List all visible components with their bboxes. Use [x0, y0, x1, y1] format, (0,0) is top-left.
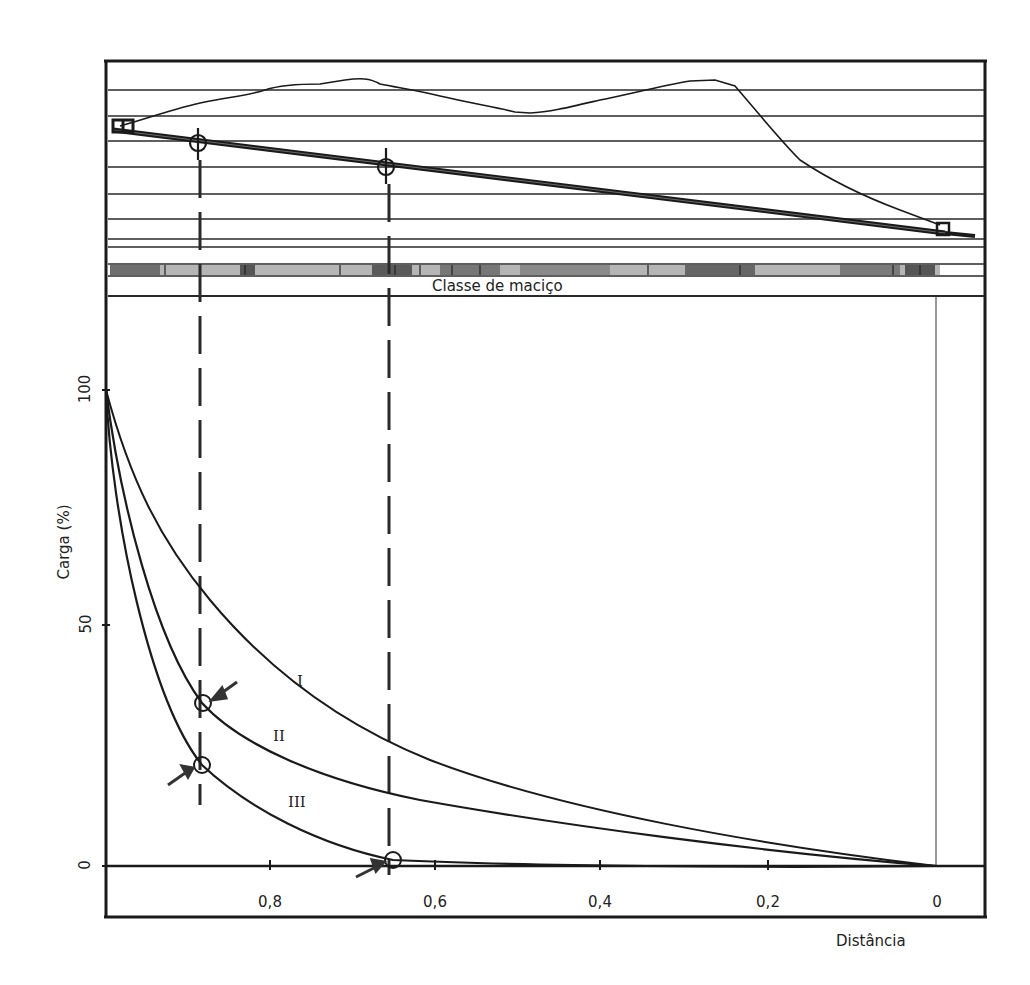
curve-marked-points — [194, 695, 401, 868]
tunnel-axis — [113, 130, 975, 236]
figure-canvas — [0, 0, 1030, 985]
outer-frame — [104, 60, 987, 918]
x-axis-label: Distância — [836, 932, 906, 950]
x-tick-0: 0 — [932, 893, 942, 911]
curve-label-I: I — [297, 672, 303, 690]
axis-marked-points — [190, 128, 394, 184]
curve-label-II: II — [273, 727, 285, 745]
curve-I — [106, 390, 936, 866]
y-tick-50: 50 — [77, 614, 95, 633]
y-tick-0: 0 — [76, 860, 94, 870]
curve-label-III: III — [288, 793, 306, 811]
x-tick-0-8: 0,8 — [258, 893, 282, 911]
load-distance-figure: Classe de maciço Carga (%) 100 50 0 0,8 … — [0, 0, 1030, 985]
rock-mass-class-label: Classe de maciço — [432, 277, 563, 295]
rock-mass-class-strip — [110, 265, 940, 275]
x-tick-0-6: 0,6 — [423, 893, 447, 911]
x-tick-0-4: 0,4 — [588, 893, 612, 911]
curve-II — [106, 390, 936, 866]
x-tick-0-2: 0,2 — [756, 893, 780, 911]
curve-III — [106, 390, 936, 867]
y-axis-label: Carga (%) — [55, 504, 73, 579]
y-tick-100: 100 — [76, 375, 94, 404]
ground-surface-line — [120, 79, 940, 225]
